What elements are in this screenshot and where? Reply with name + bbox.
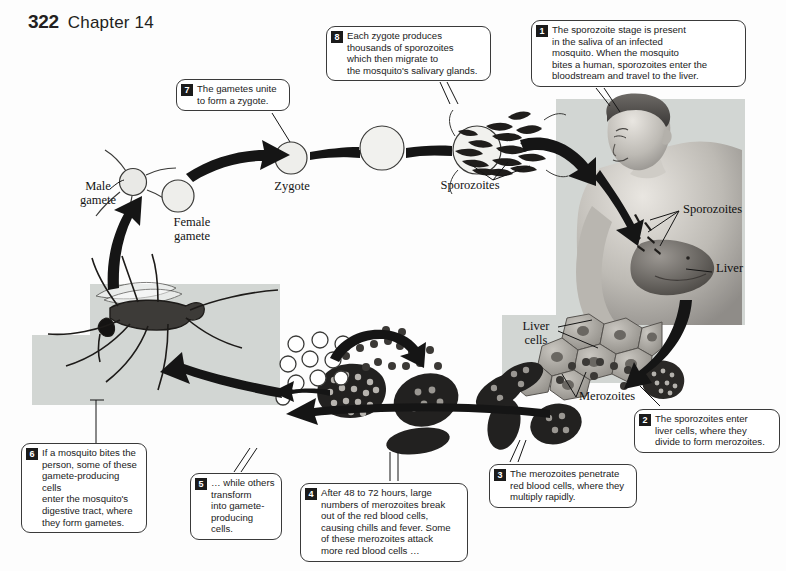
callout-7[interactable]: 7 The gametes unite to form a zygote. — [176, 79, 290, 111]
callout-8-text: Each zygote produces thousands of sporoz… — [347, 30, 477, 76]
callout-2-number: 2 — [639, 414, 651, 426]
callout-8[interactable]: 8 Each zygote produces thousands of spor… — [326, 26, 491, 81]
callout-4-number: 4 — [305, 488, 317, 500]
callout-6-number: 6 — [26, 448, 38, 460]
callout-5-number: 5 — [195, 478, 207, 490]
chapter-label: Chapter 14 — [68, 13, 154, 33]
callout-5-text: … while others transform into gamete- pr… — [211, 477, 275, 535]
callout-4[interactable]: 4 After 48 to 72 hours, large numbers of… — [300, 483, 468, 562]
callout-4-text: After 48 to 72 hours, large numbers of m… — [321, 487, 451, 557]
page-header: 322 Chapter 14 — [28, 11, 154, 33]
callout-6[interactable]: 6 If a mosquito bites the person, some o… — [21, 443, 147, 533]
callout-1[interactable]: 1 The sporozoite stage is present in the… — [531, 20, 746, 87]
callout-2-text: The sporozoites enter liver cells, where… — [655, 413, 765, 448]
callout-3-number: 3 — [494, 469, 506, 481]
callout-2[interactable]: 2 The sporozoites enter liver cells, whe… — [634, 409, 780, 453]
callout-3[interactable]: 3 The merozoites penetrate red blood cel… — [489, 464, 637, 508]
callout-1-number: 1 — [536, 25, 548, 37]
callout-3-text: The merozoites penetrate red blood cells… — [510, 468, 624, 503]
callout-7-number: 7 — [181, 84, 193, 96]
callout-6-text: If a mosquito bites the person, some of … — [42, 447, 140, 528]
page-number: 322 — [28, 11, 59, 33]
diagram-canvas: 322 Chapter 14 — [0, 0, 786, 571]
callout-7-text: The gametes unite to form a zygote. — [197, 83, 276, 106]
callout-5[interactable]: 5 … while others transform into gamete- … — [190, 473, 282, 540]
callout-1-text: The sporozoite stage is present in the s… — [552, 24, 707, 82]
callout-8-number: 8 — [331, 31, 343, 43]
